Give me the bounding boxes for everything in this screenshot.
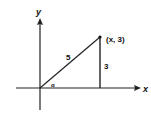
hypotenuse [40,37,100,88]
hypotenuse-label: 5 [66,53,71,62]
angle-label: α [51,82,55,88]
y-axis-label: y [35,7,42,17]
point-label: (x, 3) [106,35,125,44]
y-axis-arrow-icon [37,18,43,25]
vertical-side-label: 3 [104,62,109,71]
x-axis-label: x [142,84,149,94]
triangle-diagram: y x (x, 3) 5 3 α [0,0,151,114]
point-marker [98,35,101,38]
x-axis-arrow-icon [134,85,141,91]
